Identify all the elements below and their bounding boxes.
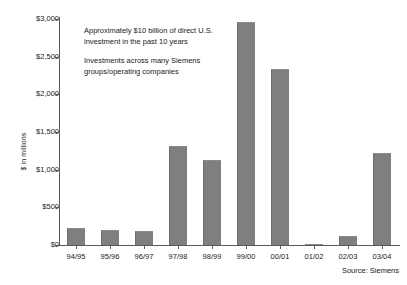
bar-chart: $ in millions $0$500$1,000$1,500$2,000$2… — [0, 0, 407, 285]
annotation-line: groups/operating companies — [84, 67, 179, 76]
annotation-line: investment in the past 10 years — [84, 37, 188, 46]
annotation-line: Investments across many Siemens — [84, 56, 200, 65]
x-axis-tick-mark — [144, 246, 145, 249]
x-axis-tick-mark — [280, 246, 281, 249]
annotation-line: Approximately $10 billion of direct U.S. — [84, 26, 213, 35]
x-axis-tick-mark — [178, 246, 179, 249]
x-axis-tick-mark — [314, 246, 315, 249]
x-axis-tick-mark — [110, 246, 111, 249]
x-axis-tick-mark — [246, 246, 247, 249]
chart-annotations: Approximately $10 billion of direct U.S.… — [84, 26, 299, 77]
x-axis-tick-mark — [382, 246, 383, 249]
x-axis-tick-mark — [348, 246, 349, 249]
annotation-investment-total: Approximately $10 billion of direct U.S.… — [84, 26, 299, 47]
x-axis-tick-label: 03/04 — [362, 252, 402, 261]
source-note: Source: Siemens — [342, 266, 399, 275]
x-axis-tick-mark — [76, 246, 77, 249]
annotation-investment-scope: Investments across many Siemens groups/o… — [84, 56, 299, 77]
x-axis-tick-mark — [212, 246, 213, 249]
